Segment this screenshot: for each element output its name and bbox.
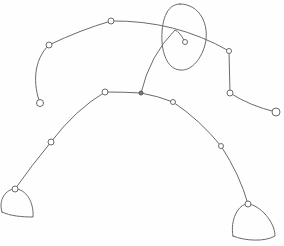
right-foot-dome xyxy=(232,204,275,240)
left-knee-node xyxy=(48,139,54,145)
right-forearm xyxy=(230,93,276,112)
left-hip-node xyxy=(102,89,108,95)
hip-node xyxy=(139,91,143,95)
right-elbow-node xyxy=(227,90,233,96)
left-forearm xyxy=(36,45,49,103)
right-hand-node xyxy=(272,108,280,116)
left-shin xyxy=(15,142,51,189)
left-foot-dome xyxy=(1,189,33,217)
right-thigh xyxy=(173,102,221,146)
left-thigh xyxy=(51,92,105,142)
right-shin xyxy=(221,146,248,204)
right-ankle-node xyxy=(245,201,251,207)
spine xyxy=(141,30,185,93)
neck-node xyxy=(183,40,188,45)
left-shoulder-node xyxy=(108,18,114,24)
right-knee-node xyxy=(219,144,224,149)
left-upper-arm xyxy=(49,21,111,45)
left-hand-node xyxy=(37,100,44,107)
left-elbow-node xyxy=(46,42,52,48)
left-ankle-node xyxy=(12,186,18,192)
right-hip-node xyxy=(171,100,176,105)
right-shoulder-node xyxy=(227,49,232,54)
sketch-canvas: Pencil sketch of a stick figure in a wid… xyxy=(0,0,284,246)
stick-figure-sketch xyxy=(0,0,284,246)
right-upper-arm xyxy=(229,51,230,93)
